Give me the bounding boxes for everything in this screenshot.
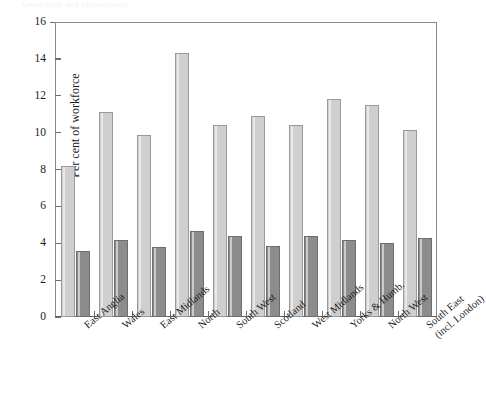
bar-highlight (177, 54, 179, 316)
bar-highlight (291, 126, 293, 316)
bar-highlight (139, 136, 141, 316)
x-axis-label: Wales (120, 322, 128, 332)
bar (213, 125, 228, 317)
bar (228, 236, 243, 317)
bar (152, 247, 167, 317)
bar (403, 130, 418, 317)
y-axis-tick-mark (50, 22, 55, 23)
bar-highlight (215, 126, 217, 316)
x-axis-label: North West (386, 322, 394, 332)
bar (99, 112, 114, 317)
bar-highlight (230, 237, 232, 316)
x-axis-label: South East(incl. London) (424, 322, 440, 341)
bar (137, 135, 152, 317)
bar (175, 53, 190, 317)
x-axis-label: Scotland (272, 322, 280, 332)
bar-highlight (253, 117, 255, 316)
bar (251, 116, 266, 317)
bar-highlight (101, 113, 103, 316)
x-axis-label-line: (incl. London) (432, 332, 440, 342)
y-axis-tick-label: 14 (35, 51, 47, 66)
x-axis-label: East Anglia (82, 322, 90, 332)
y-axis-tick-label: 10 (35, 125, 47, 140)
x-axis-label: South West (234, 322, 242, 332)
bar (327, 99, 342, 317)
bar (76, 251, 91, 317)
y-axis-tick-label: 16 (35, 14, 47, 29)
y-axis-tick-label: 2 (40, 272, 46, 287)
x-axis-label: North (196, 322, 204, 332)
y-axis-tick-label: 6 (40, 198, 46, 213)
bar-highlight (329, 100, 331, 316)
bar (289, 125, 304, 317)
bar (61, 166, 76, 317)
y-axis-tick-label: 12 (35, 88, 47, 103)
y-axis-tick-label: 8 (40, 162, 46, 177)
y-axis-tick-label: 4 (40, 235, 46, 250)
x-axis-label: East Midlands (158, 322, 166, 332)
plot-area (57, 22, 437, 317)
bar (365, 105, 380, 317)
bar-highlight (367, 106, 369, 316)
x-axis-label: West Midlands (310, 322, 318, 332)
bar-highlight (63, 167, 65, 316)
y-axis-tick-label: 0 (40, 309, 46, 324)
x-axis-label: Yorks & Humb. (348, 322, 356, 332)
bar-highlight (154, 248, 156, 316)
bar-highlight (78, 252, 80, 316)
